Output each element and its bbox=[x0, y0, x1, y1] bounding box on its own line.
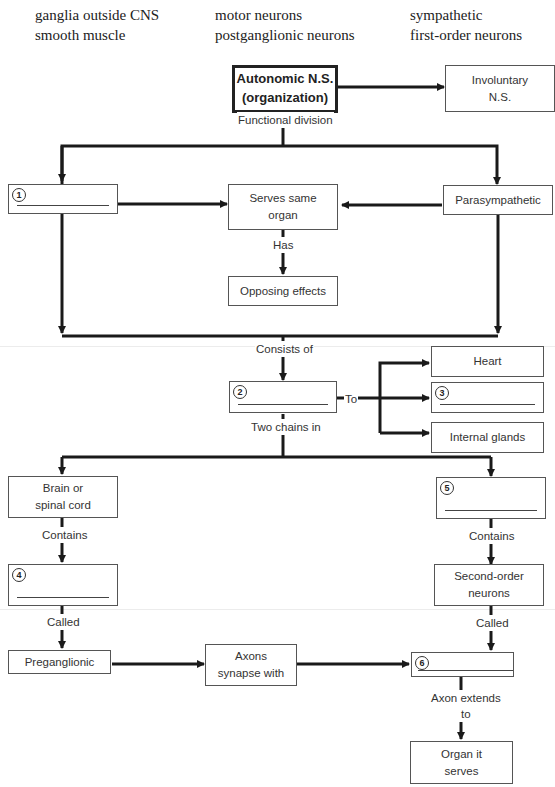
node-brain-spinal-cord: Brain or spinal cord bbox=[8, 476, 118, 518]
edge-label-axon-extends-to: Axon extends to bbox=[430, 690, 502, 722]
number-4-icon: 4 bbox=[12, 568, 26, 582]
node-label: Serves same organ bbox=[249, 190, 316, 223]
blank-5[interactable]: 5 bbox=[436, 477, 546, 519]
node-label: Axons synapse with bbox=[218, 648, 284, 681]
blank-3[interactable]: 3 bbox=[431, 382, 544, 413]
node-second-order-neurons: Second-order neurons bbox=[434, 564, 544, 606]
node-label: Second-order neurons bbox=[454, 568, 524, 601]
number-6-icon: 6 bbox=[415, 656, 429, 670]
node-preganglionic: Preganglionic bbox=[8, 650, 111, 674]
blank-2[interactable]: 2 bbox=[229, 381, 337, 413]
node-label: Opposing effects bbox=[240, 283, 326, 300]
number-3-icon: 3 bbox=[435, 386, 449, 400]
answer-line[interactable] bbox=[238, 404, 328, 405]
node-involuntary-ns: Involuntary N.S. bbox=[445, 65, 555, 112]
node-heart: Heart bbox=[431, 346, 544, 377]
concept-map: ganglia outside CNS smooth muscle motor … bbox=[0, 0, 555, 787]
edge-label-contains: Contains bbox=[41, 527, 88, 543]
node-parasympathetic: Parasympathetic bbox=[443, 185, 553, 215]
blank-4[interactable]: 4 bbox=[8, 564, 118, 606]
number-5-icon: 5 bbox=[440, 481, 454, 495]
node-label: Involuntary N.S. bbox=[472, 72, 528, 105]
answer-line[interactable] bbox=[440, 404, 535, 405]
edge-label-two-chains-in: Two chains in bbox=[250, 419, 322, 435]
node-autonomic-ns: Autonomic N.S. (organization) bbox=[232, 65, 338, 113]
node-internal-glands: Internal glands bbox=[431, 422, 544, 453]
edge-label-called: Called bbox=[475, 615, 510, 631]
node-label: Organ it serves bbox=[441, 746, 482, 779]
node-label: Parasympathetic bbox=[455, 192, 541, 209]
node-opposing-effects: Opposing effects bbox=[228, 276, 338, 306]
answer-line[interactable] bbox=[445, 510, 537, 511]
edge-label-functional-division: Functional division bbox=[237, 112, 334, 128]
node-label: Preganglionic bbox=[25, 654, 95, 671]
number-2-icon: 2 bbox=[233, 385, 247, 399]
node-label: Internal glands bbox=[450, 429, 525, 446]
answer-line[interactable] bbox=[17, 597, 109, 598]
edge-label-consists-of: Consists of bbox=[255, 341, 314, 357]
answer-line[interactable] bbox=[418, 670, 513, 671]
number-1-icon: 1 bbox=[12, 188, 26, 202]
edge-label-contains: Contains bbox=[468, 528, 515, 544]
answer-line[interactable] bbox=[17, 205, 109, 206]
blank-6[interactable]: 6 bbox=[411, 652, 514, 677]
node-organ-it-serves: Organ it serves bbox=[410, 741, 513, 784]
edge-label-to: To bbox=[344, 391, 358, 407]
node-serves-same-organ: Serves same organ bbox=[228, 184, 338, 230]
node-label: Brain or spinal cord bbox=[35, 480, 91, 513]
edge-label-called: Called bbox=[46, 614, 81, 630]
edge-label-has: Has bbox=[272, 237, 294, 253]
node-label: Heart bbox=[473, 353, 501, 370]
blank-1[interactable]: 1 bbox=[8, 184, 118, 214]
node-label: Autonomic N.S. (organization) bbox=[237, 70, 334, 108]
node-axons-synapse-with: Axons synapse with bbox=[205, 644, 297, 686]
